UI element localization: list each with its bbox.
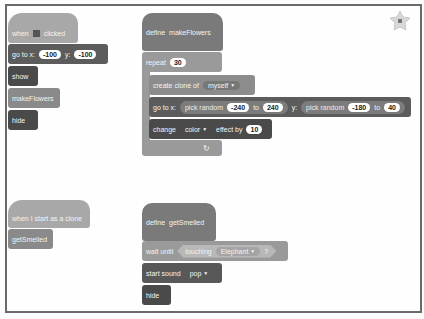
when-i-start-as-clone-block[interactable]: when I start as a clone (8, 200, 90, 228)
go-to-xy-block[interactable]: go to x: -100 y: -100 (8, 44, 108, 64)
dropdown-value: myself (208, 82, 228, 89)
block-label: when I start as a clone (12, 215, 82, 222)
chevron-down-icon: ▼ (230, 82, 235, 88)
repeat-block[interactable]: repeat 30 (142, 52, 222, 72)
chevron-down-icon: ▼ (203, 270, 208, 276)
x-to-input[interactable]: 240 (263, 103, 283, 112)
block-label: wait until (146, 248, 173, 255)
show-block[interactable]: show (8, 66, 38, 86)
reporter-label: pick random (185, 104, 223, 111)
get-smelled-call-block[interactable]: getSmelled (8, 229, 53, 249)
effect-value-input[interactable]: 10 (246, 125, 262, 134)
when-flag-clicked-block[interactable]: when clicked (8, 13, 78, 43)
wait-until-block[interactable]: wait until touching Elephant ▼ ? (142, 241, 288, 261)
green-flag-icon (33, 30, 40, 37)
chevron-down-icon: ▼ (250, 248, 255, 254)
y-from-input[interactable]: -180 (348, 103, 370, 112)
block-label: show (12, 73, 28, 80)
start-sound-block[interactable]: start sound pop ▼ (142, 263, 222, 283)
block-label: start sound (146, 270, 181, 277)
hide-block[interactable]: hide (8, 110, 38, 130)
define-make-flowers-block[interactable]: define makeFlowers (142, 13, 223, 51)
pick-random-y-reporter[interactable]: pick random -180 to 40 (301, 101, 405, 114)
define-get-smelled-block[interactable]: define getSmelled (142, 203, 216, 241)
procedure-name: getSmelled (169, 219, 204, 226)
block-label: create clone of (153, 82, 199, 89)
block-label: hide (12, 117, 25, 124)
y-input[interactable]: -100 (74, 50, 96, 59)
y-to-input[interactable]: 40 (384, 103, 400, 112)
repeat-count-input[interactable]: 30 (170, 58, 186, 67)
procedure-name: makeFlowers (169, 29, 211, 36)
change-effect-block[interactable]: change color ▼ effect by 10 (149, 119, 272, 139)
loop-arrow-icon: ↻ (203, 144, 210, 153)
block-label: when (12, 30, 29, 37)
reporter-label: to (253, 104, 259, 111)
add-sprite-icon (388, 9, 412, 33)
hide-block[interactable]: hide (142, 285, 171, 305)
block-label: repeat (146, 59, 166, 66)
dropdown-value: Elephant (221, 248, 249, 255)
x-from-input[interactable]: -240 (227, 103, 249, 112)
block-label: effect by (216, 126, 242, 133)
block-label: hide (146, 292, 159, 299)
block-label: define (146, 219, 165, 226)
dropdown-value: color (185, 126, 200, 133)
touching-target-dropdown[interactable]: Elephant ▼ (216, 247, 261, 256)
block-label: go to x: (153, 104, 176, 111)
sound-dropdown[interactable]: pop ▼ (185, 269, 214, 278)
block-label: define (146, 29, 165, 36)
reporter-label: pick random (306, 104, 344, 111)
block-label: y: (65, 51, 70, 58)
block-label: change (153, 126, 176, 133)
effect-dropdown[interactable]: color ▼ (180, 125, 212, 134)
block-label: makeFlowers (12, 95, 54, 102)
block-label: y: (292, 104, 297, 111)
block-label: go to x: (12, 51, 35, 58)
dropdown-value: pop (190, 270, 202, 277)
chevron-down-icon: ▼ (202, 126, 207, 132)
add-sprite-button[interactable] (388, 9, 412, 33)
block-label: clicked (44, 30, 65, 37)
create-clone-block[interactable]: create clone of myself ▼ (149, 75, 255, 95)
block-label: getSmelled (12, 236, 47, 243)
x-input[interactable]: -100 (39, 50, 61, 59)
clone-target-dropdown[interactable]: myself ▼ (203, 81, 240, 90)
touching-condition[interactable]: touching Elephant ▼ ? (177, 245, 276, 258)
condition-label: ? (264, 248, 268, 255)
reporter-label: to (374, 104, 380, 111)
condition-label: touching (185, 248, 211, 255)
pick-random-x-reporter[interactable]: pick random -240 to 240 (180, 101, 288, 114)
repeat-footer[interactable]: ↻ (142, 140, 222, 156)
make-flowers-call-block[interactable]: makeFlowers (8, 88, 60, 108)
go-to-random-xy-block[interactable]: go to x: pick random -240 to 240 y: pick… (149, 97, 411, 117)
